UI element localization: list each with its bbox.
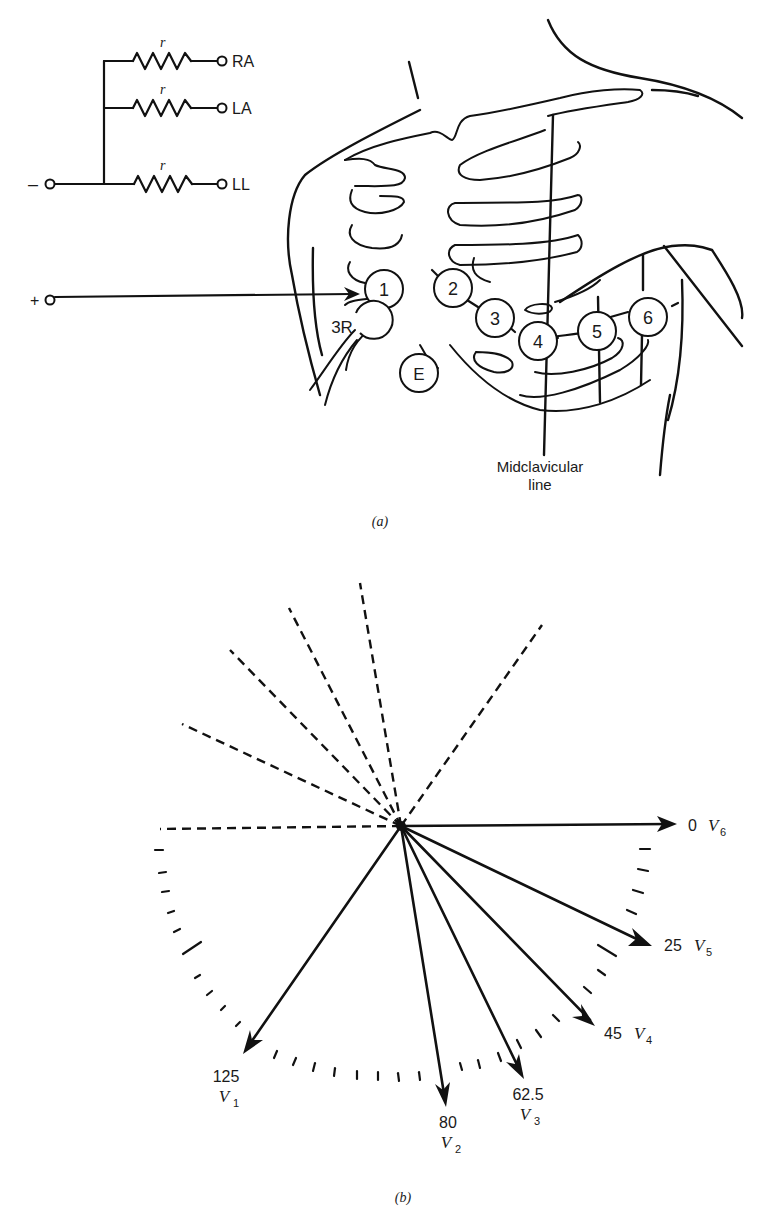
lead-label-v5: 25 V 5 — [664, 936, 712, 958]
electrodes: 1 2 3 4 5 6 3R — [331, 269, 667, 392]
caption-a: (a) — [372, 514, 389, 530]
negative-sign: – — [28, 174, 38, 194]
svg-text:4: 4 — [533, 332, 543, 352]
svg-text:5: 5 — [706, 946, 712, 958]
lead-label-v1: 125 V 1 — [213, 1068, 240, 1109]
la-terminal-icon — [218, 104, 227, 113]
resistor-label-ra: r — [160, 35, 166, 50]
svg-text:3: 3 — [490, 309, 500, 329]
svg-text:45: 45 — [604, 1025, 622, 1042]
svg-text:80: 80 — [439, 1114, 457, 1131]
resistor-label-la: r — [160, 82, 166, 97]
lead-label-ra: RA — [232, 53, 255, 70]
svg-text:125: 125 — [213, 1068, 240, 1085]
resistor-label-ll: r — [160, 158, 166, 173]
lead-label-v3: 62.5 V 3 — [512, 1086, 543, 1127]
positive-sign: + — [30, 292, 39, 309]
electrode-6: 6 — [629, 298, 667, 336]
electrode-4: 4 — [519, 322, 557, 360]
lead-label-la: LA — [232, 100, 252, 117]
central-terminal-circuit — [54, 53, 217, 192]
svg-text:1: 1 — [233, 1097, 239, 1109]
vector-v4 — [401, 826, 590, 1020]
positive-terminal-icon — [46, 296, 55, 305]
vector-v1 — [247, 826, 401, 1048]
dashed-axes — [160, 583, 542, 829]
electrode-e: E — [400, 354, 438, 392]
svg-text:V: V — [520, 1105, 533, 1124]
torso-outline — [288, 20, 742, 475]
svg-text:6: 6 — [720, 826, 726, 838]
ra-terminal-icon — [218, 57, 227, 66]
electrode-links — [360, 270, 678, 341]
lead-label-v6: 0 V 6 — [688, 816, 726, 838]
origin-point-icon — [396, 821, 406, 831]
electrode-3r: 3R — [331, 301, 393, 339]
figure-canvas: – + r r r RA LA LL — [0, 0, 760, 1221]
svg-text:25: 25 — [664, 937, 682, 954]
svg-text:3: 3 — [534, 1115, 540, 1127]
electrode-5: 5 — [578, 312, 616, 350]
arrowhead-v4-icon — [572, 1004, 595, 1026]
panel-b: 0 V 6 25 V 5 45 V 4 62.5 V 3 80 V 2 125 … — [155, 583, 726, 1206]
vector-v3 — [401, 826, 521, 1073]
vector-v6 — [401, 824, 670, 826]
svg-text:0: 0 — [688, 817, 697, 834]
lead-label-v2: 80 V 2 — [439, 1114, 461, 1155]
svg-text:2: 2 — [448, 279, 458, 299]
electrode-2: 2 — [434, 269, 472, 307]
angle-tick-marks — [155, 849, 650, 1081]
electrode-3: 3 — [476, 299, 514, 337]
midclavicular-label-line2: line — [528, 476, 551, 493]
panel-a: – + r r r RA LA LL — [28, 20, 742, 530]
resistor-ll-icon — [134, 176, 192, 192]
lead-label-v4: 45 V 4 — [604, 1024, 652, 1046]
lead-label-ll: LL — [232, 176, 250, 193]
svg-text:3R: 3R — [331, 318, 353, 337]
caption-b: (b) — [395, 1190, 412, 1206]
svg-text:6: 6 — [643, 308, 653, 328]
negative-terminal-icon — [46, 180, 55, 189]
lead-vectors — [247, 824, 670, 1100]
arrowhead-v1-icon — [243, 1030, 263, 1054]
midclavicular-label-line1: Midclavicular — [497, 458, 584, 475]
vector-v5 — [401, 826, 645, 943]
vector-v2 — [401, 826, 445, 1100]
svg-text:4: 4 — [646, 1034, 652, 1046]
svg-text:62.5: 62.5 — [512, 1086, 543, 1103]
svg-text:5: 5 — [592, 322, 602, 342]
ll-terminal-icon — [218, 180, 227, 189]
resistor-la-icon — [133, 100, 191, 116]
svg-text:V: V — [441, 1133, 454, 1152]
svg-text:E: E — [413, 365, 424, 384]
resistor-ra-icon — [133, 53, 191, 69]
svg-text:2: 2 — [455, 1143, 461, 1155]
svg-text:V: V — [219, 1087, 232, 1106]
svg-text:1: 1 — [379, 280, 389, 300]
